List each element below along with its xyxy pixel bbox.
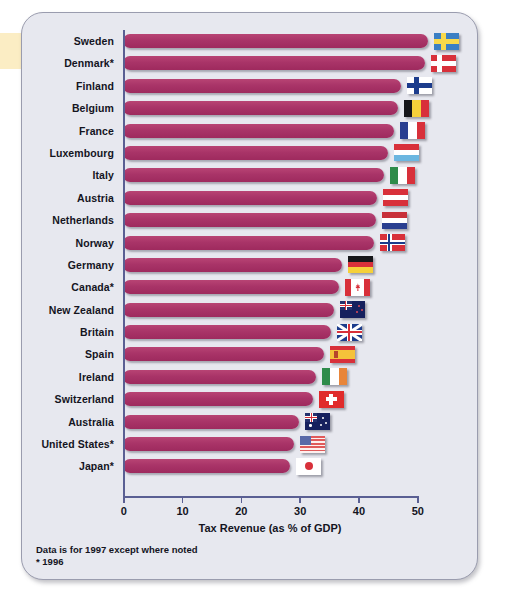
footnote-line-1: Data is for 1997 except where noted [36, 544, 198, 556]
bar [123, 79, 401, 93]
bar-row: Luxembourg [22, 142, 477, 164]
flag-spain-icon [330, 346, 355, 363]
bar-row: Netherlands [22, 209, 477, 231]
x-axis-title: Tax Revenue (as % of GDP) [123, 522, 417, 534]
bar-row: Sweden [22, 30, 477, 52]
bar-track [123, 276, 477, 298]
chart-footnotes: Data is for 1997 except where noted * 19… [36, 544, 198, 567]
bar [123, 168, 384, 182]
bar-row: Switzerland [22, 388, 477, 410]
bar-row: France [22, 120, 477, 142]
bar-track [123, 321, 477, 343]
x-tick [299, 496, 301, 503]
bar [123, 459, 290, 473]
bar-track [123, 299, 477, 321]
flag-france-icon [400, 122, 425, 139]
bar-row: Spain [22, 343, 477, 365]
bar [123, 191, 377, 205]
category-label: Ireland [22, 366, 114, 388]
bar-track [123, 52, 477, 74]
category-label: Belgium [22, 97, 114, 119]
x-tick-label: 0 [121, 505, 127, 517]
bar-track [123, 433, 477, 455]
flag-austria-icon [383, 189, 408, 206]
flag-netherlands-icon [382, 212, 407, 229]
chart-card: Sweden Denmark* Finland BelgiumFranceLux… [21, 12, 478, 580]
bar-track [123, 232, 477, 254]
x-tick [123, 496, 125, 503]
bar [123, 258, 342, 272]
category-label: Australia [22, 411, 114, 433]
bar [123, 437, 294, 451]
bar [123, 213, 376, 227]
bar [123, 325, 331, 339]
x-tick-label: 40 [353, 505, 365, 517]
flag-new-zealand-icon [340, 301, 365, 318]
category-label: Finland [22, 75, 114, 97]
category-label: Sweden [22, 30, 114, 52]
bar-row: New Zealand [22, 299, 477, 321]
left-edge-tab [0, 33, 22, 69]
bar-track [123, 388, 477, 410]
x-tick-label: 30 [294, 505, 306, 517]
bar [123, 303, 334, 317]
x-tick [241, 496, 243, 503]
bar [123, 236, 374, 250]
bar-row: Italy [22, 164, 477, 186]
bar-track [123, 97, 477, 119]
category-label: Germany [22, 254, 114, 276]
x-tick-label: 50 [412, 505, 424, 517]
flag-britain-icon [337, 324, 362, 341]
x-tick [417, 496, 419, 503]
category-label: Spain [22, 343, 114, 365]
bar-row: Austria [22, 187, 477, 209]
bar-row: Britain [22, 321, 477, 343]
bar [123, 146, 388, 160]
category-label: Italy [22, 164, 114, 186]
flag-italy-icon [390, 167, 415, 184]
bar-track [123, 75, 477, 97]
flag-ireland-icon [322, 368, 347, 385]
flag-belgium-icon [404, 100, 429, 117]
flag-united-states-icon [300, 436, 325, 453]
bar-track [123, 411, 477, 433]
bar [123, 101, 398, 115]
bar-track [123, 343, 477, 365]
bar-track [123, 455, 477, 477]
bar [123, 280, 339, 294]
flag-australia-icon [305, 413, 330, 430]
category-label: Japan* [22, 455, 114, 477]
flag-canada-icon [345, 279, 370, 296]
category-label: Switzerland [22, 388, 114, 410]
footnote-line-2: * 1996 [36, 556, 198, 568]
category-label: Austria [22, 187, 114, 209]
bar-track [123, 209, 477, 231]
flag-denmark-icon [431, 55, 456, 72]
bar-row: Belgium [22, 97, 477, 119]
flag-japan-icon [296, 458, 321, 475]
bar-track [123, 187, 477, 209]
bar-row: Norway [22, 232, 477, 254]
category-label: Britain [22, 321, 114, 343]
flag-luxembourg-icon [394, 144, 419, 161]
bar-track [123, 164, 477, 186]
bar [123, 347, 324, 361]
category-label: Luxembourg [22, 142, 114, 164]
x-tick-label: 20 [235, 505, 247, 517]
y-axis-line [123, 30, 125, 496]
category-label: France [22, 120, 114, 142]
bar-track [123, 142, 477, 164]
category-label: New Zealand [22, 299, 114, 321]
flag-germany-icon [348, 256, 373, 273]
bar-row: Ireland [22, 366, 477, 388]
bar-rows: Sweden Denmark* Finland BelgiumFranceLux… [22, 30, 477, 478]
bar-row: Japan* [22, 455, 477, 477]
bar-track [123, 254, 477, 276]
bar [123, 124, 394, 138]
bar-row: Finland [22, 75, 477, 97]
bar [123, 392, 313, 406]
category-label: Norway [22, 232, 114, 254]
x-tick [182, 496, 184, 503]
category-label: Canada* [22, 276, 114, 298]
flag-finland-icon [407, 77, 432, 94]
